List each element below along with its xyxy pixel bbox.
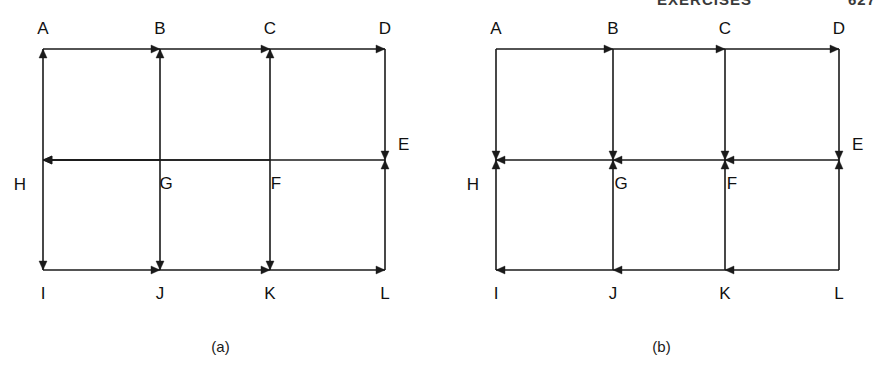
node-label-E: E: [398, 135, 409, 154]
edge-I-J: [43, 266, 160, 274]
node-label-A: A: [37, 19, 49, 38]
node-label-E: E: [852, 135, 863, 154]
arrowhead-left: [725, 266, 734, 274]
edge-C-D: [270, 45, 385, 53]
arrowhead-up: [835, 160, 843, 169]
node-label-K: K: [719, 284, 731, 303]
edge-F-C: [266, 49, 274, 160]
node-label-G: G: [159, 174, 172, 193]
arrowhead-right: [604, 45, 613, 53]
edge-H-A: [39, 49, 47, 160]
arrowhead-left: [43, 156, 52, 164]
edge-C-D: [725, 45, 839, 53]
edge-D-E: [835, 49, 843, 160]
edge-A-B: [496, 45, 613, 53]
arrowhead-down: [835, 151, 843, 160]
edge-G-H: [496, 156, 613, 164]
arrowhead-left: [496, 266, 505, 274]
figure-a-graph: ABCDEFGHIJKL: [0, 0, 441, 330]
arrowhead-down: [381, 151, 389, 160]
edge-C-F: [721, 49, 729, 160]
edge-L-E: [835, 160, 843, 270]
arrowhead-up: [39, 49, 47, 58]
edge-K-L: [270, 266, 385, 274]
node-label-J: J: [609, 284, 618, 303]
node-label-F: F: [727, 174, 737, 193]
edge-A-B: [43, 45, 160, 53]
edge-K-J: [613, 266, 725, 274]
edge-J-I: [496, 266, 613, 274]
edge-L-E: [381, 160, 389, 270]
arrowhead-down: [39, 261, 47, 270]
node-label-I: I: [494, 284, 499, 303]
arrowhead-right: [376, 266, 385, 274]
node-label-H: H: [14, 175, 26, 194]
edge-G-B: [156, 49, 164, 160]
node-label-C: C: [264, 19, 276, 38]
arrowhead-right: [376, 45, 385, 53]
edge-B-C: [160, 45, 270, 53]
edge-I-H: [492, 160, 500, 270]
edge-F-G: [613, 156, 725, 164]
arrowhead-right: [716, 45, 725, 53]
edge-E-F: [725, 156, 839, 164]
node-label-I: I: [41, 284, 46, 303]
edge-L-K: [725, 266, 839, 274]
figure-b-graph: ABCDEFGHIJKL: [441, 0, 882, 330]
figure-b-canvas: ABCDEFGHIJKL: [441, 0, 882, 383]
node-label-B: B: [154, 19, 165, 38]
figure-a-caption: (a): [0, 338, 441, 355]
edge-B-C: [613, 45, 725, 53]
arrowhead-up: [381, 160, 389, 169]
node-label-F: F: [271, 174, 281, 193]
figure-a-canvas: ABCDEFGHIJKL: [0, 0, 441, 383]
figure-a: ABCDEFGHIJKL (a): [0, 0, 441, 383]
edge-D-E: [381, 49, 389, 160]
arrowhead-left: [613, 266, 622, 274]
edge-B-G: [609, 49, 617, 160]
node-label-H: H: [467, 175, 479, 194]
figure-b: ABCDEFGHIJKL (b): [441, 0, 882, 383]
edge-J-K: [160, 266, 270, 274]
edge-G-H: [43, 156, 160, 164]
node-label-L: L: [380, 284, 389, 303]
node-label-A: A: [490, 19, 502, 38]
arrowhead-right: [830, 45, 839, 53]
node-label-L: L: [834, 284, 843, 303]
node-label-D: D: [833, 19, 845, 38]
figure-page: EXERCISES 627 ABCDEFGHIJKL (a) ABCDEFGHI…: [0, 0, 882, 383]
node-label-C: C: [719, 19, 731, 38]
node-label-B: B: [607, 19, 618, 38]
node-label-G: G: [614, 174, 627, 193]
node-label-J: J: [156, 284, 165, 303]
edge-H-I: [39, 160, 47, 270]
edge-A-H: [492, 49, 500, 160]
node-label-K: K: [264, 284, 276, 303]
node-label-D: D: [379, 19, 391, 38]
figure-b-caption: (b): [441, 338, 882, 355]
